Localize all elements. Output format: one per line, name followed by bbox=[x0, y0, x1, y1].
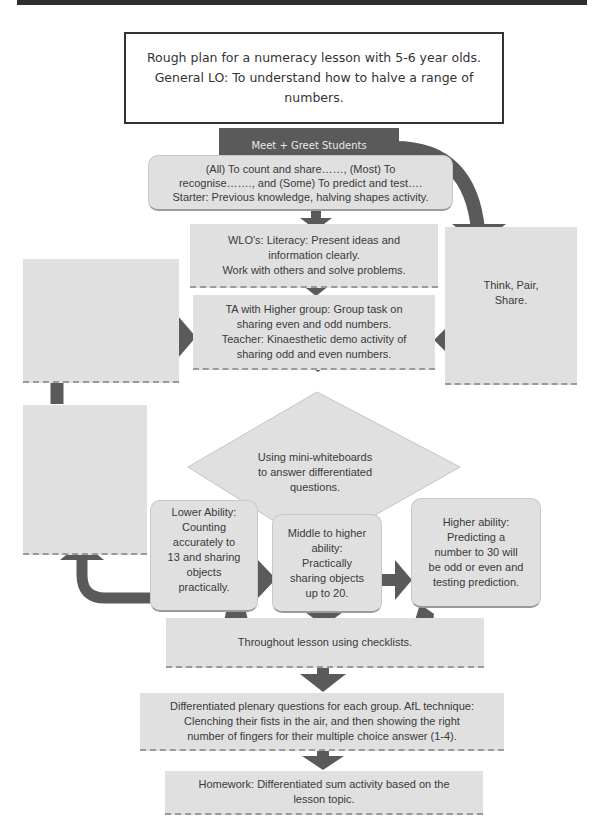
teacher-line-1: Teacher: Kinaesthetic demo activity of bbox=[222, 332, 407, 347]
decision-line-1: Using mini-whiteboards bbox=[240, 450, 390, 465]
middle-ability-line-3: Practically bbox=[302, 556, 352, 571]
decision-text: Using mini-whiteboards to answer differe… bbox=[240, 450, 390, 495]
title-line-1: Rough plan for a numeracy lesson with 5-… bbox=[147, 48, 481, 68]
lower-ability-line-1: Lower Ability: bbox=[172, 505, 237, 520]
higher-ability-line-5: testing prediction. bbox=[433, 575, 519, 590]
title-line-2: General LO: To understand how to halve a… bbox=[126, 68, 502, 108]
objectives-line-3: Starter: Previous knowledge, halving sha… bbox=[173, 190, 429, 204]
lower-ability-line-5: objects bbox=[187, 565, 222, 580]
higher-ability-line-2: Predicting a bbox=[447, 530, 505, 545]
decision-line-2: to answer differentiated bbox=[240, 465, 390, 480]
lower-ability-line-2: Counting bbox=[182, 520, 226, 535]
higher-ability-line-3: number to 30 will bbox=[434, 545, 517, 560]
ta-line-2: sharing even and odd numbers. bbox=[237, 317, 392, 332]
lower-ability-box: Lower Ability: Counting accurately to 13… bbox=[150, 500, 258, 612]
higher-ability-line-4: be odd or even and bbox=[429, 560, 524, 575]
teacher-line-2: sharing odd and even numbers. bbox=[237, 347, 392, 362]
higher-ability-line-1: Higher ability: bbox=[443, 515, 510, 530]
objectives-line-2: recognise……., and (Some) To predict and … bbox=[179, 176, 422, 190]
middle-ability-line-1: Middle to higher bbox=[288, 526, 366, 541]
checklists-box: Throughout lesson using checklists. bbox=[166, 618, 484, 668]
plenary-line-1: Differentiated plenary questions for eac… bbox=[170, 699, 474, 714]
plenary-line-2: Clenching their fists in the air, and th… bbox=[184, 714, 460, 729]
lower-ability-line-4: 13 and sharing bbox=[168, 550, 241, 565]
homework-line-1: Homework: Differentiated sum activity ba… bbox=[198, 777, 449, 792]
homework-line-2: lesson topic. bbox=[293, 792, 354, 807]
objectives-line-1: (All) To count and share……, (Most) To bbox=[206, 162, 396, 176]
ta-line-1: TA with Higher group: Group task on bbox=[225, 302, 402, 317]
empty-left-bottom-box bbox=[23, 405, 147, 555]
top-border-bar bbox=[17, 0, 587, 5]
checklists-text: Throughout lesson using checklists. bbox=[238, 635, 412, 650]
middle-ability-line-2: ability: bbox=[311, 541, 342, 556]
lower-ability-line-3: accurately to bbox=[173, 535, 235, 550]
decision-line-3: questions. bbox=[240, 480, 390, 495]
lower-ability-line-6: practically. bbox=[178, 580, 229, 595]
middle-ability-line-5: up to 20. bbox=[306, 586, 349, 601]
plenary-box: Differentiated plenary questions for eac… bbox=[140, 693, 504, 751]
think-pair-share-line-2: Share. bbox=[495, 293, 527, 308]
wlo-line-2: information clearly. bbox=[268, 248, 360, 263]
higher-ability-box: Higher ability: Predicting a number to 3… bbox=[411, 498, 541, 608]
wlo-box: WLO's: Literacy: Present ideas and infor… bbox=[190, 224, 438, 288]
middle-ability-line-4: sharing objects bbox=[290, 571, 364, 586]
think-pair-share-line-1: Think, Pair, bbox=[483, 278, 538, 293]
homework-box: Homework: Differentiated sum activity ba… bbox=[165, 771, 483, 815]
think-pair-share-box: Think, Pair, Share. bbox=[445, 227, 577, 385]
lesson-title-box: Rough plan for a numeracy lesson with 5-… bbox=[124, 32, 504, 124]
plenary-line-3: number of fingers for their multiple cho… bbox=[187, 729, 457, 744]
wlo-line-1: WLO's: Literacy: Present ideas and bbox=[228, 233, 400, 248]
ta-teacher-box: TA with Higher group: Group task on shar… bbox=[193, 295, 435, 370]
middle-ability-box: Middle to higher ability: Practically sh… bbox=[272, 514, 382, 613]
empty-left-top-box bbox=[23, 259, 179, 383]
wlo-line-3: Work with others and solve problems. bbox=[222, 263, 405, 278]
objectives-box: (All) To count and share……, (Most) To re… bbox=[148, 155, 453, 211]
arrow-lower-to-left-box bbox=[82, 557, 160, 598]
